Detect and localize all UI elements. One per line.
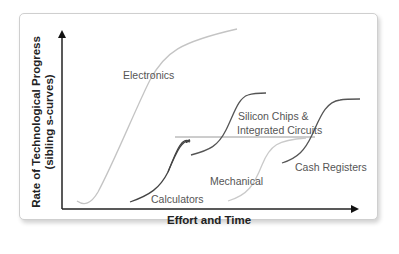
y-axis-label-line2: (sibling s-curves) <box>43 74 55 169</box>
label-cash-registers: Cash Registers <box>295 161 367 173</box>
label-mechanical: Mechanical <box>210 175 263 187</box>
s-curve-diagram: Electronics Calculators Silicon Chips & … <box>0 0 399 254</box>
label-silicon-line1: Silicon Chips & <box>238 110 309 122</box>
label-electronics: Electronics <box>123 69 174 81</box>
x-axis-label: Effort and Time <box>167 214 251 226</box>
y-axis-label-line1: Rate of Technological Progress <box>30 36 42 208</box>
label-calculators: Calculators <box>151 193 204 205</box>
series-calculators-curve-top <box>168 140 190 172</box>
label-silicon-line2: Integrated Circuits <box>237 124 322 136</box>
